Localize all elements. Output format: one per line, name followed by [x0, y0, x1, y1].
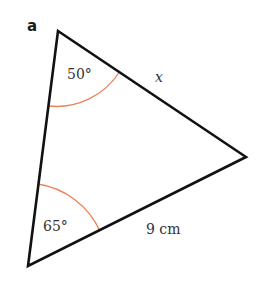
part-label: a	[27, 19, 37, 34]
side-label-9cm: 9 cm	[146, 222, 180, 236]
angle-label-bottom: 65°	[43, 219, 68, 233]
angle-label-top: 50°	[67, 67, 92, 81]
side-label-x: x	[155, 70, 163, 84]
triangle-diagram: a 50° 65° x 9 cm	[0, 0, 271, 282]
triangle-figure	[0, 0, 271, 282]
